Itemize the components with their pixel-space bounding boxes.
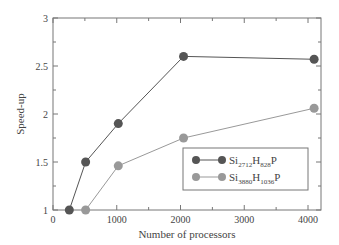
data-point [310,104,319,113]
data-point [310,55,319,64]
legend-marker [192,156,200,164]
speedup-chart: 0100020003000400011.522.53 Si2712H828PSi… [0,0,339,245]
data-point [65,206,74,215]
axes: 0100020003000400011.522.53 [36,13,322,225]
y-tick-label: 2 [43,109,48,120]
y-tick-label: 1 [43,205,48,216]
legend-marker [218,156,226,164]
x-tick-label: 2000 [171,214,191,225]
y-axis-label: Speed-up [14,93,26,135]
y-tick-label: 1.5 [36,157,49,168]
data-point [179,52,188,61]
x-tick-label: 4000 [298,214,318,225]
x-tick-label: 1000 [107,214,127,225]
data-point [81,158,90,167]
x-tick-label: 3000 [234,214,254,225]
x-tick-label: 0 [51,214,56,225]
legend-marker [192,173,200,181]
data-point [179,134,188,143]
data-point [114,119,123,128]
data-point [81,206,90,215]
legend-marker [218,173,226,181]
x-axis-label: Number of processors [138,228,235,240]
legend: Si2712H828PSi3880H1036P [183,148,308,190]
y-tick-label: 3 [43,13,48,24]
y-tick-label: 2.5 [36,61,49,72]
data-point [114,161,123,170]
